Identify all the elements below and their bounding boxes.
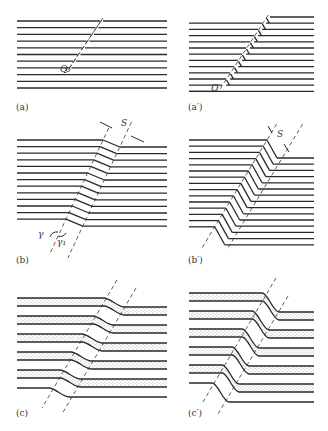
fault-line — [220, 15, 268, 89]
kinked-segment — [69, 213, 86, 220]
angle-gamma-label: γ — [38, 229, 44, 239]
panel-a-prime: (a′) Q — [188, 15, 314, 112]
kinked-segment — [103, 140, 120, 147]
kinked-segment — [88, 173, 105, 180]
panel-c-label: (c) — [16, 408, 28, 418]
angle-gamma1-arc — [58, 233, 66, 236]
band-boundary-left — [201, 124, 277, 250]
layer-boundary — [17, 388, 167, 397]
kinked-segment — [100, 147, 117, 154]
kinked-segment — [78, 193, 95, 200]
angle-gamma1-label: γ₁ — [57, 237, 66, 247]
point-q-label: Q — [60, 64, 68, 74]
panel-b-label: (b) — [16, 255, 29, 265]
band-boundary-right — [227, 124, 303, 250]
panel-b: (b) S γ γ₁ — [16, 118, 167, 265]
panel-a-prime-label: (a′) — [188, 102, 202, 112]
kinked-segment — [72, 206, 89, 213]
kinked-segment — [81, 186, 98, 193]
panel-b-prime-label: (b′) — [188, 255, 203, 265]
band-boundary-right — [68, 122, 132, 258]
panel-c-prime: (c′) — [188, 278, 314, 418]
panel-b-prime: (b′) S — [188, 124, 314, 265]
kink-band-diagram: (a) Q (a′) Q (b) S γ γ₁ (b′) S (c) (c′) — [0, 0, 328, 431]
kinked-segment — [97, 153, 114, 160]
panel-a: (a) Q — [16, 14, 167, 112]
panel-a-label: (a) — [16, 102, 28, 112]
panel-c-prime-label: (c′) — [188, 408, 202, 418]
kinked-segment — [66, 219, 83, 226]
band-width-s-label: S — [121, 118, 127, 128]
kinked-segment — [94, 160, 111, 167]
kinked-segment — [75, 199, 92, 206]
point-q-prime-label: Q — [211, 83, 219, 93]
kinked-segment — [85, 180, 102, 187]
kinked-segment — [91, 166, 108, 173]
panel-c: (c) — [16, 280, 167, 418]
band-width-s-prime-label: S — [277, 129, 283, 139]
